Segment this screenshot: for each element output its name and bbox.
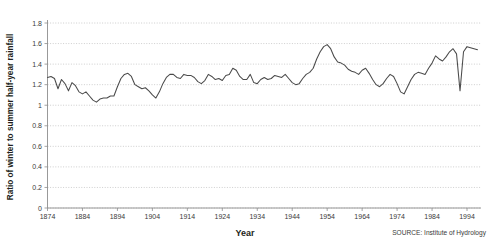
x-tick-label-1964: 1964 (354, 213, 370, 220)
chart-figure: 00.20.40.60.811.21.41.61.8 1874188418941… (0, 0, 491, 243)
y-tick-labels: 00.20.40.60.811.21.41.61.8 (32, 20, 42, 212)
x-tick-label-1884: 1884 (75, 213, 91, 220)
rainfall-ratio-line-chart: 00.20.40.60.811.21.41.61.8 1874188418941… (0, 0, 491, 243)
y-tick-label-1.6: 1.6 (32, 40, 42, 47)
x-tick-label-1914: 1914 (180, 213, 196, 220)
y-tick-label-0.2: 0.2 (32, 184, 42, 191)
y-tick-label-0.8: 0.8 (32, 122, 42, 129)
x-tick-labels: 1874188418941904191419241934194419541964… (40, 213, 475, 220)
y-tick-label-0.4: 0.4 (32, 163, 42, 170)
x-tick-label-1944: 1944 (284, 213, 300, 220)
x-tick-label-1894: 1894 (110, 213, 126, 220)
x-tick-label-1984: 1984 (424, 213, 440, 220)
y-tick-label-1.4: 1.4 (32, 61, 42, 68)
x-tick-label-1924: 1924 (215, 213, 231, 220)
y-tick-label-0.6: 0.6 (32, 143, 42, 150)
y-axis-title: Ratio of winter to summer half-year rain… (6, 34, 15, 201)
x-tick-label-1994: 1994 (459, 213, 475, 220)
x-tick-label-1874: 1874 (40, 213, 56, 220)
y-tick-label-0: 0 (38, 205, 42, 212)
y-tick-label-1: 1 (38, 102, 42, 109)
x-tick-label-1934: 1934 (249, 213, 265, 220)
rainfall-ratio-series-line (48, 45, 478, 103)
x-tick-label-1904: 1904 (145, 213, 161, 220)
y-tick-label-1.2: 1.2 (32, 81, 42, 88)
y-tick-label-1.8: 1.8 (32, 20, 42, 27)
x-tick-label-1954: 1954 (319, 213, 335, 220)
gridlines (48, 23, 482, 208)
source-note: SOURCE: Institute of Hydrology (392, 229, 487, 237)
x-tick-label-1974: 1974 (389, 213, 405, 220)
x-axis-title: Year (235, 228, 255, 238)
axes (45, 20, 482, 211)
